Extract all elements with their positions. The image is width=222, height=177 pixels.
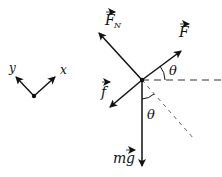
svg-text:g: g bbox=[126, 150, 135, 166]
axes-origin-dot bbox=[32, 94, 36, 98]
y-axis-label: y bbox=[8, 61, 16, 75]
normal-force-arrow bbox=[99, 33, 142, 80]
theta-label-mg: θ bbox=[147, 107, 155, 122]
angle-arc-F bbox=[160, 66, 165, 80]
applied-force-label: F bbox=[178, 24, 190, 40]
theta-label-F: θ bbox=[169, 63, 177, 78]
angle-arc-mg bbox=[142, 94, 154, 99]
object-point bbox=[140, 78, 144, 82]
svg-text:F: F bbox=[178, 24, 190, 40]
weight-label: m g bbox=[113, 150, 135, 166]
x-axis-label: x bbox=[60, 63, 67, 77]
svg-text:f: f bbox=[100, 84, 109, 100]
friction-force-label: f bbox=[100, 82, 110, 100]
svg-text:m: m bbox=[113, 150, 126, 166]
x-axis-arrow bbox=[34, 77, 55, 96]
friction-force-arrow bbox=[110, 80, 142, 107]
normal-force-label: F N bbox=[104, 12, 122, 30]
svg-text:N: N bbox=[113, 21, 122, 30]
free-body-diagram: y x F N F f m g θ θ bbox=[0, 0, 222, 177]
y-axis-arrow bbox=[16, 77, 34, 96]
coordinate-axes: y x bbox=[8, 61, 67, 98]
